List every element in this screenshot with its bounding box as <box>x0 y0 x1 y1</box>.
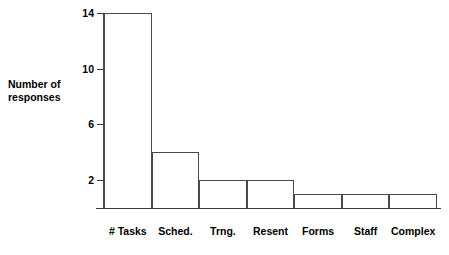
y-tick-mark <box>97 69 104 70</box>
y-axis-title: Number of responses <box>8 78 80 104</box>
y-tick-mark <box>97 180 104 181</box>
x-axis-label-tasks: # Tasks <box>104 224 152 238</box>
plot-area <box>104 13 437 208</box>
y-tick-label: 2 <box>88 174 94 187</box>
bar-tasks <box>104 13 152 208</box>
bar-sched <box>152 152 200 208</box>
x-axis-label-complex: Complex <box>389 224 437 238</box>
y-tick-label: 10 <box>82 63 94 76</box>
bar-staff <box>342 194 390 208</box>
x-axis-label-forms: Forms <box>294 224 342 238</box>
bar-trng <box>199 180 247 208</box>
y-tick-2: 2 <box>0 174 104 187</box>
y-tick-14: 14 <box>0 7 104 20</box>
y-tick-label: 6 <box>88 118 94 131</box>
bar-complex <box>389 194 437 208</box>
bar-chart: Number of responses 141062 # TasksSched.… <box>0 0 449 255</box>
x-axis-label-trng: Trng. <box>199 224 247 238</box>
bar-forms <box>294 194 342 208</box>
y-tick-6: 6 <box>0 118 104 131</box>
y-tick-10: 10 <box>0 63 104 76</box>
x-axis-label-resent: Resent <box>247 224 295 238</box>
y-tick-mark <box>97 13 104 14</box>
x-axis-line <box>96 208 441 209</box>
bar-resent <box>247 180 295 208</box>
x-axis-label-staff: Staff <box>342 224 390 238</box>
y-tick-label: 14 <box>82 7 94 20</box>
x-axis-label-sched: Sched. <box>152 224 200 238</box>
y-tick-mark <box>97 124 104 125</box>
